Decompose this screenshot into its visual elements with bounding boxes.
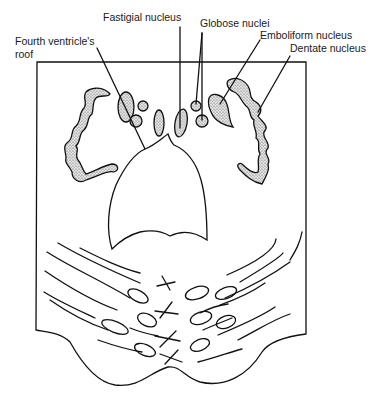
leader-roof (97, 48, 145, 149)
tract-nuclei (100, 284, 238, 360)
cerebellar-nuclei-diagram (0, 0, 382, 399)
label-globose-nuclei: Globose nuclei (200, 17, 269, 29)
fastigial-nucleus (173, 108, 190, 138)
fourth-ventricle (109, 134, 207, 249)
label-fourth-ventricle-roof-line2: roof (15, 48, 33, 60)
globose-nucleus-left-1 (138, 101, 148, 111)
dentate-nucleus-right (227, 78, 269, 184)
decussation-marks (155, 276, 182, 364)
fibre-tracts (44, 232, 302, 362)
label-dentate-nucleus: Dentate nucleus (290, 42, 366, 54)
leader-dentate (258, 56, 290, 112)
label-fourth-ventricle-roof-line1: Fourth ventricle's (15, 35, 95, 47)
globose-nucleus-left-3 (154, 110, 164, 136)
leader-globose-1 (196, 33, 202, 104)
label-emboliform-nucleus: Emboliform nucleus (260, 29, 352, 41)
label-fastigial-nucleus: Fastigial nucleus (103, 11, 181, 23)
dentate-nucleus-left (65, 88, 118, 181)
emboliform-nucleus-right (208, 95, 233, 127)
